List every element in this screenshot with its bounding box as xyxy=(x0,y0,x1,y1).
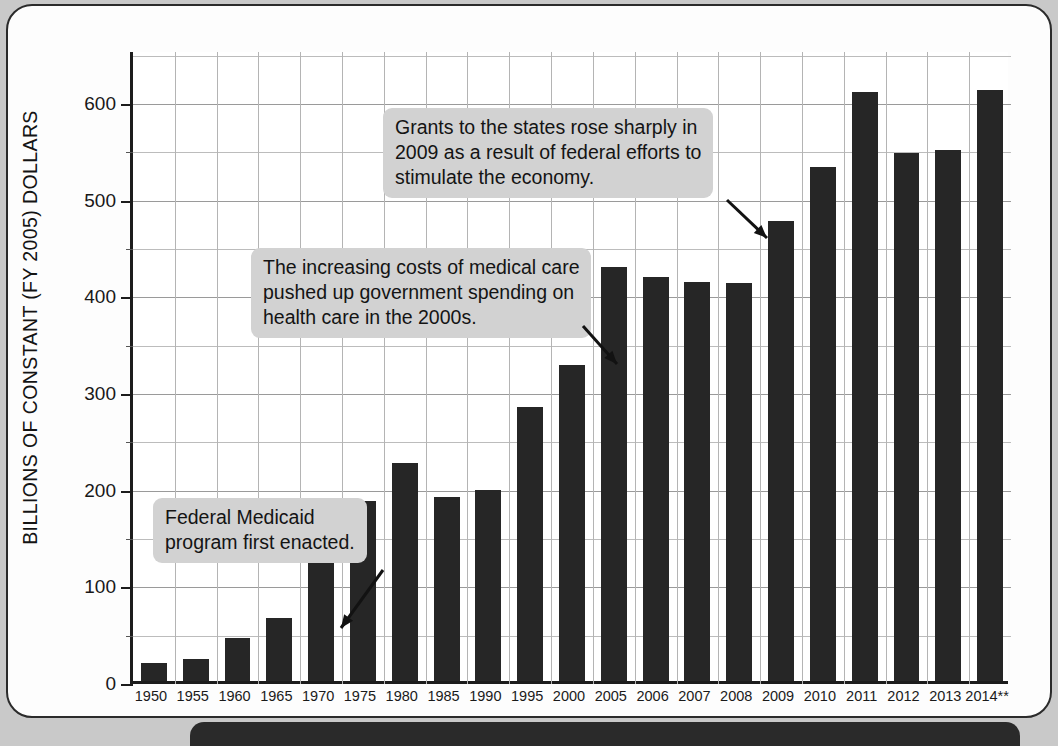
x-tick-label: 1955 xyxy=(177,688,209,704)
page-canvas: BILLIONS OF CONSTANT (FY 2005) DOLLARS F… xyxy=(0,0,1058,746)
x-tick-label: 2007 xyxy=(678,688,710,704)
y-tick-label: 600 xyxy=(56,93,116,115)
y-tick-major xyxy=(121,684,133,686)
x-tick-label: 2014** xyxy=(965,688,1009,704)
annotation-arrow-stimulus xyxy=(133,52,1011,684)
y-tick-major xyxy=(121,587,133,589)
y-tick-minor xyxy=(126,442,133,443)
x-axis-labels: 1950195519601965197019751980198519901995… xyxy=(130,688,1008,714)
x-tick-label: 1990 xyxy=(469,688,501,704)
y-tick-major xyxy=(121,201,133,203)
y-tick-major xyxy=(121,297,133,299)
y-tick-label: 300 xyxy=(56,383,116,405)
x-tick-label: 1950 xyxy=(135,688,167,704)
y-tick-minor xyxy=(126,152,133,153)
page-sheet: BILLIONS OF CONSTANT (FY 2005) DOLLARS F… xyxy=(6,4,1052,718)
book-edge-bar xyxy=(190,722,1020,746)
y-tick-major xyxy=(121,491,133,493)
y-tick-label: 500 xyxy=(56,190,116,212)
x-tick-label: 1960 xyxy=(218,688,250,704)
y-axis-title: BILLIONS OF CONSTANT (FY 2005) DOLLARS xyxy=(19,38,42,618)
x-tick-label: 2008 xyxy=(720,688,752,704)
y-tick-minor xyxy=(126,636,133,637)
x-tick-label: 2005 xyxy=(595,688,627,704)
x-tick-label: 2013 xyxy=(929,688,961,704)
y-tick-label: 200 xyxy=(56,480,116,502)
x-tick-label: 1995 xyxy=(511,688,543,704)
x-tick-label: 1965 xyxy=(260,688,292,704)
y-tick-major xyxy=(121,104,133,106)
y-tick-minor xyxy=(126,249,133,250)
x-tick-label: 2011 xyxy=(846,688,877,704)
x-tick-label: 2012 xyxy=(887,688,919,704)
x-tick-label: 2000 xyxy=(553,688,585,704)
x-tick-label: 2010 xyxy=(804,688,836,704)
y-tick-label: 100 xyxy=(56,576,116,598)
y-tick-major xyxy=(121,394,133,396)
x-tick-label: 1970 xyxy=(302,688,334,704)
x-tick-label: 1980 xyxy=(386,688,418,704)
plot-area: Federal Medicaidprogram first enacted.Th… xyxy=(130,52,1008,684)
y-tick-label: 400 xyxy=(56,286,116,308)
x-tick-label: 1975 xyxy=(344,688,376,704)
y-tick-minor xyxy=(126,539,133,540)
y-tick-minor xyxy=(126,346,133,347)
x-tick-label: 2006 xyxy=(636,688,668,704)
x-tick-label: 2009 xyxy=(762,688,794,704)
y-tick-label: 0 xyxy=(56,673,116,695)
x-tick-label: 1985 xyxy=(427,688,459,704)
